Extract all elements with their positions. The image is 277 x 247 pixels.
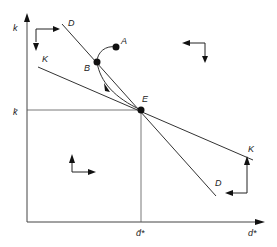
d-bar-label: d̄*: [136, 228, 145, 238]
y-axis-label: k: [13, 23, 18, 33]
point-a-label: A: [120, 36, 127, 46]
y-axis: [24, 13, 30, 222]
phase-arrows-top-left-icon: [33, 26, 60, 51]
y-axis-arrow-icon: [24, 13, 30, 22]
k-curve-label-right: K: [248, 144, 255, 154]
x-axis-label: d*: [248, 228, 257, 238]
x-axis-arrow-icon: [255, 219, 265, 225]
k-bar-label: k̄: [13, 107, 18, 117]
point-e: [138, 107, 145, 114]
phase-arrows-bottom-right-icon: [225, 156, 250, 196]
phase-diagram: k d* k̄ d̄* D D K K A B E: [0, 0, 277, 247]
x-axis: [27, 219, 265, 225]
trajectory-b-to-e: [97, 62, 141, 110]
phase-arrows-top-right-icon: [182, 40, 208, 63]
d-curve-label-bottom: D: [215, 178, 222, 188]
phase-arrows-bottom-left-icon: [69, 154, 96, 175]
point-e-label: E: [142, 94, 149, 104]
point-a: [113, 44, 120, 51]
point-b-label: B: [84, 63, 90, 73]
k-curve: [38, 67, 253, 160]
k-curve-label-left: K: [42, 54, 49, 64]
point-b: [94, 59, 101, 66]
d-curve-label-top: D: [68, 18, 75, 28]
